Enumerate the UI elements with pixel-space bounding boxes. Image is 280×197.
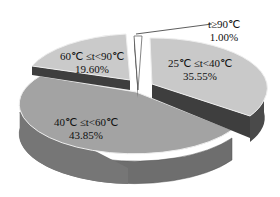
label-90-plus-range: t≥90℃ [208,18,240,31]
label-60-90-range: 60℃ ≤t<90℃ [60,50,124,63]
label-60-90: 60℃ ≤t<90℃ 19.60% [60,50,124,76]
label-40-60-range: 40℃ ≤t<60℃ [54,116,118,129]
label-40-60-pct: 43.85% [54,129,118,142]
label-90-plus: t≥90℃ 1.00% [208,18,240,44]
leader-line [136,24,212,34]
slice-90-plus-top [134,36,142,90]
label-90-plus-pct: 1.00% [208,31,240,44]
label-25-40-pct: 35.55% [168,70,232,83]
label-60-90-pct: 19.60% [60,63,124,76]
label-40-60: 40℃ ≤t<60℃ 43.85% [54,116,118,142]
label-25-40: 25℃ ≤t<40℃ 35.55% [168,57,232,83]
label-25-40-range: 25℃ ≤t<40℃ [168,57,232,70]
